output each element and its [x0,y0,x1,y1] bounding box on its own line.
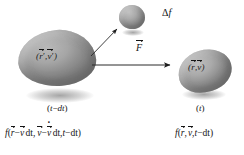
fl-v1: v [20,128,24,138]
fl-vdot: v [47,128,51,138]
initial-blob-label: (r′,v′) [36,51,57,61]
fl-dt1: dt [26,128,33,138]
initial-blob-shadow [26,88,94,103]
initial-blob-label-r: r [39,51,43,61]
initial-blob-label-close: ) [54,51,57,61]
fr-r: r [181,128,185,138]
final-phase-space-blob [173,43,236,98]
force-label: F [136,42,142,53]
fl-r: r [11,128,15,138]
final-time-label: (t) [196,103,205,113]
fl-close: ) [78,128,81,138]
final-blob-label-v: v [197,62,201,72]
delta-f-f: f [168,7,171,18]
delta-f-label: Δf [162,7,171,18]
fr-close: ) [210,128,213,138]
fl-dt3: dt [70,128,77,138]
physics-diagram-figure: (r′,v′) (r,v) Δf F (t−dt) (t) f(r−vdt,v−… [0,0,244,155]
initial-blob-label-v: v [48,51,52,61]
fr-dt: dt [202,128,209,138]
initial-time-label: (t−dt) [47,103,68,113]
force-vector-symbol: F [136,42,142,53]
initial-distribution-formula: f(r−vdt,v−vdt,t−dt) [5,128,81,138]
final-blob-label-close: ) [202,62,205,72]
fr-comma1: , [185,128,187,138]
fr-v: v [188,128,192,138]
fl-comma1: , [33,128,35,138]
t2-close: ) [202,103,205,113]
t1-dt: dt [58,103,65,113]
small-blob-shadow [122,29,144,36]
delta-f-blob [119,5,145,29]
fl-v2: v [37,128,41,138]
final-blob-label: (r,v) [188,62,205,72]
final-blob-label-r: r [191,62,195,72]
t1-close: ) [65,103,68,113]
fl-dt2: dt [53,128,60,138]
final-distribution-formula: f(r,v,t−dt) [175,128,213,138]
